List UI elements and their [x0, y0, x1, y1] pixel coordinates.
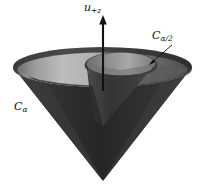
axis-label-sub: +z	[91, 6, 101, 15]
axis-label: u+z	[84, 2, 101, 15]
inner-cone-label-sub: α/2	[160, 34, 172, 43]
axis-arrow-head	[99, 15, 107, 25]
outer-cone-label: Cα	[14, 101, 27, 114]
cone-diagram	[0, 0, 204, 194]
inner-cone-label: Cα/2	[152, 30, 173, 43]
outer-cone-label-sub: α	[22, 105, 27, 114]
